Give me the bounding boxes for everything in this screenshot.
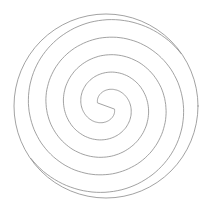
- spiral-arm-a: [28, 20, 183, 193]
- spiral-svg: [0, 0, 214, 208]
- spiral-diagram: [0, 0, 214, 208]
